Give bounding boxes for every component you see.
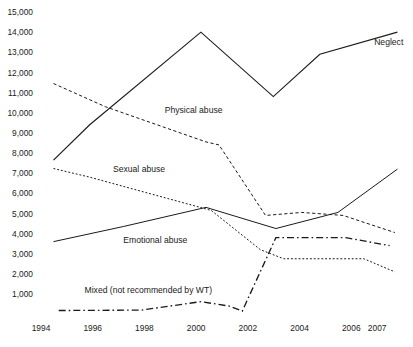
y-tick-label: 15,000 [7, 7, 33, 17]
y-tick-label: 10,000 [7, 108, 33, 118]
y-tick-label: 7,000 [12, 168, 33, 178]
y-tick-label: 12,000 [7, 68, 33, 78]
x-tick-label: 1994 [32, 323, 51, 333]
chart-canvas: 15,00014,00013,00012,00011,00010,0009,00… [0, 0, 413, 347]
y-tick-label: 11,000 [8, 88, 33, 98]
x-tick-label: 2007 [368, 323, 387, 333]
x-tick-label: 2000 [187, 323, 206, 333]
x-tick-label: 2002 [239, 323, 258, 333]
series-annotations: NeglectPhysical abuseSexual abuseEmotion… [85, 37, 404, 295]
y-tick-label: 5,000 [12, 209, 33, 219]
series-lines [54, 32, 398, 311]
y-tick-label: 2,000 [12, 269, 33, 279]
y-tick-label: 1,000 [12, 289, 33, 299]
series-line-physical-abuse [54, 84, 395, 233]
y-axis-tick-labels: 15,00014,00013,00012,00011,00010,0009,00… [7, 7, 33, 299]
x-axis-tick-labels: 19941996199820002002200420062007 [32, 323, 387, 333]
series-line-neglect [54, 32, 398, 160]
y-tick-label: 8,000 [12, 148, 33, 158]
y-tick-label: 13,000 [7, 47, 33, 57]
x-tick-label: 1998 [135, 323, 154, 333]
series-label-neglect: Neglect [374, 37, 404, 47]
y-tick-label: 4,000 [12, 229, 33, 239]
y-tick-label: 3,000 [12, 249, 33, 259]
line-chart-figure: 15,00014,00013,00012,00011,00010,0009,00… [0, 0, 413, 347]
series-label-physical-abuse: Physical abuse [165, 105, 223, 115]
y-tick-label: 9,000 [12, 128, 33, 138]
series-label-mixed-not-recommended-by-wt: Mixed (not recommended by WT) [85, 285, 213, 295]
x-tick-label: 2004 [290, 323, 309, 333]
series-label-emotional-abuse: Emotional abuse [123, 235, 187, 245]
series-line-emotional-abuse [54, 169, 398, 242]
series-line-mixed-not-recommended-by-wt [59, 238, 390, 312]
x-tick-label: 1996 [83, 323, 102, 333]
x-tick-label: 2006 [342, 323, 361, 333]
series-line-sexual-abuse [54, 169, 395, 272]
y-tick-label: 6,000 [12, 188, 33, 198]
y-tick-label: 14,000 [7, 27, 33, 37]
series-label-sexual-abuse: Sexual abuse [113, 164, 165, 174]
